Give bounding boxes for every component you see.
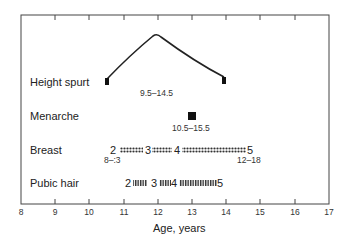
row-label-menarche: Menarche [30, 110, 79, 122]
height-spurt-start-marker [105, 78, 109, 85]
x-tick-9: 9 [53, 207, 58, 217]
pubic-bar-4-5 [179, 180, 217, 186]
x-tick-11: 11 [120, 207, 129, 217]
height-spurt-curve [107, 35, 224, 79]
x-tick-12: 12 [153, 207, 162, 217]
row-label-pubic-hair: Pubic hair [30, 177, 79, 189]
height-spurt-end-marker [222, 77, 226, 84]
breast-stage-3: 3 [145, 144, 151, 156]
pubic-stage-3: 3 [151, 177, 157, 189]
breast-bar-4-5 [182, 147, 246, 153]
breast-bar-2-3 [120, 147, 143, 153]
breast-start-range: 8–:3 [104, 155, 121, 165]
x-tick-15: 15 [255, 207, 264, 217]
pubic-stage-5: 5 [217, 177, 223, 189]
x-tick-8: 8 [19, 207, 24, 217]
menarche-marker [188, 112, 196, 120]
menarche-range: 10.5–15.5 [172, 123, 210, 133]
row-label-breast: Breast [30, 144, 62, 156]
breast-end-range: 12–18 [237, 155, 261, 165]
breast-stage-5: 5 [247, 144, 253, 156]
x-tick-16: 16 [290, 207, 299, 217]
pubic-stage-4: 4 [171, 177, 177, 189]
breast-bar-3-4 [152, 147, 172, 153]
breast-stage-4: 4 [174, 144, 180, 156]
pubic-stage-2: 2 [125, 177, 131, 189]
breast-stage-2: 2 [110, 144, 116, 156]
x-tick-13: 13 [187, 207, 196, 217]
x-axis-label: Age, years [153, 222, 206, 234]
x-tick-14: 14 [221, 207, 230, 217]
pubic-bar-2-3 [133, 180, 147, 186]
pubic-bar-3-4 [159, 180, 171, 186]
height-spurt-range: 9.5–14.5 [140, 88, 173, 98]
x-tick-17: 17 [324, 207, 333, 217]
row-label-height-spurt: Height spurt [30, 76, 89, 88]
x-tick-10: 10 [84, 207, 93, 217]
